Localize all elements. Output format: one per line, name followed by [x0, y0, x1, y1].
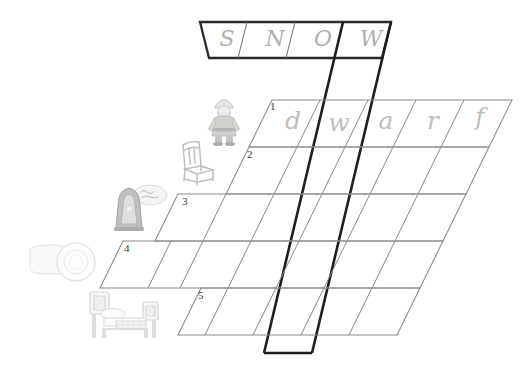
vertical-column-right-edge	[312, 22, 391, 353]
vertical-highlight-column[interactable]	[264, 22, 391, 353]
answer-row-4[interactable]	[100, 241, 443, 288]
answer-row-5-divider-4	[349, 288, 372, 335]
clue-image-bed	[86, 288, 162, 340]
answer-row-4-divider-1	[148, 241, 171, 288]
answer-row-3-divider-2	[251, 194, 274, 241]
row-number-1: 1	[270, 101, 276, 112]
top-letter-3: W	[351, 28, 391, 50]
answer-row-5-border	[178, 288, 420, 335]
chair-icon	[172, 139, 218, 187]
crossword-worksheet: S N O W d w a r f 1 2 3 4 5	[0, 0, 525, 380]
row-1-letter-0: d	[272, 108, 314, 133]
answer-row-5[interactable]	[178, 288, 420, 335]
answer-row-3-divider-3	[299, 194, 322, 241]
clue-image-chair	[172, 139, 218, 187]
answer-row-4-divider-4	[276, 241, 299, 288]
answer-row-2-divider-3	[370, 147, 393, 194]
row-number-4: 4	[124, 243, 130, 254]
answer-row-5-divider-3	[301, 288, 324, 335]
bed-icon	[86, 288, 162, 340]
row-1-letter-2: a	[365, 108, 407, 133]
vertical-column-left-edge	[264, 22, 343, 353]
top-letter-2: O	[303, 28, 343, 50]
top-letter-1: N	[255, 28, 295, 50]
answer-row-3-divider-1	[203, 194, 226, 241]
answer-row-2[interactable]	[226, 147, 489, 194]
answer-row-4-divider-3	[228, 241, 251, 288]
answer-row-3-divider-4	[347, 194, 370, 241]
crossword-grid	[0, 0, 525, 380]
row-number-5: 5	[198, 290, 204, 301]
row-number-2: 2	[247, 149, 253, 160]
answer-row-5-divider-1	[205, 288, 228, 335]
row-1-letter-3: r	[412, 108, 454, 133]
top-letter-0: S	[207, 28, 247, 50]
answer-row-2-divider-1	[274, 147, 297, 194]
answer-row-2-divider-4	[418, 147, 441, 194]
answer-row-4-divider-5	[324, 241, 347, 288]
row-1-letter-4: f	[459, 104, 501, 129]
row-1-letter-1: w	[318, 110, 360, 135]
answer-row-3[interactable]	[155, 194, 466, 241]
answer-row-4-divider-6	[372, 241, 395, 288]
row-number-3: 3	[182, 196, 188, 207]
plates-icon	[28, 238, 98, 286]
mirror-icon	[108, 182, 170, 234]
answer-row-4-divider-2	[180, 241, 203, 288]
clue-image-mirror	[108, 182, 170, 234]
answer-row-2-divider-2	[322, 147, 345, 194]
answer-row-3-divider-5	[395, 194, 418, 241]
clue-image-plates	[28, 238, 98, 286]
answer-row-2-border	[226, 147, 489, 194]
answer-row-5-divider-2	[253, 288, 276, 335]
